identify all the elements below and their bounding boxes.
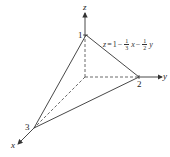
y-intercept-label: 2 [137,80,142,89]
eq-minus-2: − [136,40,141,49]
fraction-one-third: 1 3 [124,38,129,51]
plane-equation: z = 1 − 1 3 x − 1 2 y [103,38,153,51]
eq-lhs: z [103,40,106,49]
edge-z-to-x [34,35,86,128]
z-axis-label: z [83,3,87,12]
eq-minus-1: − [118,40,123,49]
eq-sign: = [107,40,112,49]
y-axis-label: y [163,72,167,81]
eq-var-y: y [149,40,153,49]
x-axis-label: x [11,141,15,150]
z-intercept-label: 1 [78,31,83,40]
plane-intercept-diagram [0,0,170,157]
eq-var-x: x [131,40,135,49]
eq-const: 1 [113,40,117,49]
edge-x-to-y [34,77,139,128]
x-axis-dashed [34,77,85,128]
x-intercept-label: 3 [25,123,30,132]
fraction-one-half: 1 2 [142,38,147,51]
